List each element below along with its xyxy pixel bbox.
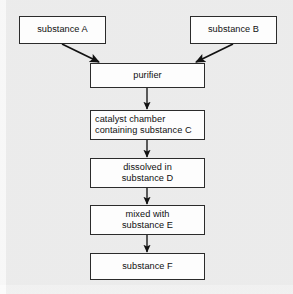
node-dissolved: dissolved in substance D [90,158,205,188]
node-label: mixed with substance E [122,209,173,232]
node-substance_b: substance B [190,16,277,44]
node-label: substance B [208,24,259,36]
node-label: catalyst chamber containing substance C [95,114,192,137]
node-label: purifier [133,70,161,82]
node-label: dissolved in substance D [122,162,174,185]
flow-diagram: substance Asubstance Bpurifiercatalyst c… [0,0,293,294]
edge-layer [0,0,293,294]
edge-b-to-purifier [196,44,233,62]
node-substance_a: substance A [19,16,106,44]
node-label: substance F [122,261,173,273]
node-label: substance A [37,24,88,36]
node-purifier: purifier [90,63,205,88]
node-substance_f: substance F [90,253,205,280]
paper-texture [0,0,293,294]
node-catalyst: catalyst chamber containing substance C [90,110,205,140]
node-mixed: mixed with substance E [90,205,205,235]
edge-a-to-purifier [62,44,99,62]
